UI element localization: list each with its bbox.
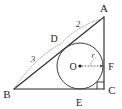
label-vertex-c: C — [108, 84, 115, 96]
label-point-d: D — [50, 33, 57, 44]
label-vertex-a: A — [100, 2, 108, 14]
label-radius: r — [91, 51, 95, 60]
right-angle-marker-c — [97, 82, 104, 89]
label-point-e: E — [76, 97, 82, 108]
geometry-diagram: A B C D E F O r 2 3 — [0, 0, 122, 109]
dotted-arc-ad — [60, 19, 103, 45]
label-point-f: F — [108, 61, 114, 72]
label-segment-ad: 2 — [76, 19, 81, 29]
label-vertex-b: B — [3, 88, 10, 100]
geometry-svg: A B C D E F O r 2 3 — [0, 0, 122, 109]
label-segment-bd: 3 — [30, 54, 36, 64]
center-point-o — [78, 64, 81, 67]
label-center-o: O — [69, 61, 76, 72]
dotted-arc-bd — [15, 45, 59, 88]
